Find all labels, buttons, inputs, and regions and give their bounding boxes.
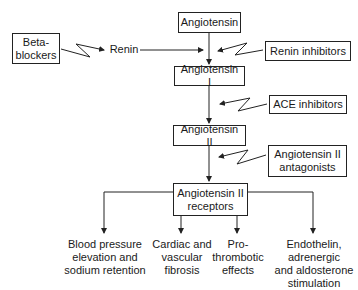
outcome-endothelin: Endothelin, adrenergic and aldosterone s… <box>270 238 358 290</box>
arrow-outcome-bp <box>104 192 173 233</box>
outcome-line: Blood pressure <box>62 238 148 251</box>
angiotensin-label: Angiotensin <box>181 16 239 29</box>
zigzag-at2-antagonists <box>219 150 266 164</box>
outcome-line: fibrosis <box>150 264 214 277</box>
receptors-line2: receptors <box>188 200 234 213</box>
angiotensin-node: Angiotensin <box>178 12 241 33</box>
angiotensin-ii-node: Angiotensin II <box>173 125 246 146</box>
outcome-line: thrombotic <box>210 251 266 264</box>
outcome-line: effects <box>210 264 266 277</box>
beta-blockers-line2: blockers <box>16 49 57 62</box>
ace-inhibitors-label: ACE inhibitors <box>273 98 343 111</box>
zigzag-beta-blockers <box>61 44 104 57</box>
outcome-line: Endothelin, <box>270 238 358 251</box>
angiotensin-ii-label: Angiotensin II <box>177 123 242 149</box>
renin-inhibitors-label: Renin inhibitors <box>270 45 346 58</box>
renin-inhibitors-box: Renin inhibitors <box>265 41 351 61</box>
outcome-line: sodium retention <box>62 264 148 277</box>
beta-blockers-box: Beta- blockers <box>12 33 60 64</box>
outcome-line: Cardiac and <box>150 238 214 251</box>
outcome-line: elevation and <box>62 251 148 264</box>
at2-antagonists-box: Angiotensin II antagonists <box>268 145 347 177</box>
outcome-line: and aldosterone <box>270 264 358 277</box>
outcome-fibrosis: Cardiac and vascular fibrosis <box>150 238 214 277</box>
zigzag-ace-inhibitors <box>220 98 267 111</box>
outcome-line: vascular <box>150 251 214 264</box>
angiotensin-ii-receptors-node: Angiotensin II receptors <box>173 183 248 216</box>
outcome-line: stimulation <box>270 277 358 290</box>
outcome-line: Pro- <box>210 238 266 251</box>
arrow-outcome-endothelin <box>247 192 313 233</box>
at2-antagonists-line2: antagonists <box>279 161 335 174</box>
ace-inhibitors-box: ACE inhibitors <box>269 95 347 114</box>
renin-label: Renin <box>108 43 140 56</box>
outcome-blood-pressure: Blood pressure elevation and sodium rete… <box>62 238 148 277</box>
outcome-prothrombotic: Pro- thrombotic effects <box>210 238 266 277</box>
outcome-line: adrenergic <box>270 251 358 264</box>
zigzag-renin-inhibitors <box>218 43 263 55</box>
receptors-line1: Angiotensin II <box>177 187 244 200</box>
beta-blockers-line1: Beta- <box>23 36 49 49</box>
at2-antagonists-line1: Angiotensin II <box>274 148 341 161</box>
angiotensin-i-node: Angiotensin I <box>174 66 245 86</box>
angiotensin-i-label: Angiotensin I <box>178 63 241 89</box>
